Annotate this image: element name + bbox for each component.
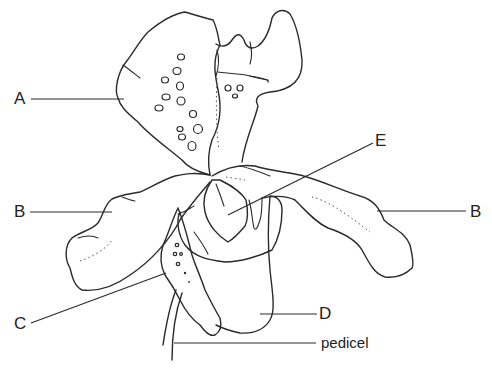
- label-c: C: [14, 315, 26, 332]
- label-b-left: B: [14, 203, 25, 220]
- label-pedicel: pedicel: [321, 335, 369, 350]
- upper-lobe-line-2: [250, 42, 252, 64]
- dorsal-sepal-spots: [155, 54, 203, 151]
- pedicel-stem: [163, 290, 182, 360]
- dorsal-sepal-fold: [123, 65, 140, 78]
- right-petal-serrated-edge: [240, 166, 270, 176]
- left-petal-vein: [80, 240, 112, 261]
- orchid-diagram: A B B C D E pedicel: [0, 0, 492, 369]
- staminode-line: [216, 184, 224, 206]
- upper-lobe-seam-2: [250, 76, 268, 80]
- synsepal-spots: [173, 243, 190, 283]
- dorsal-sepal-outline: [116, 12, 220, 175]
- upper-lobe-seam: [218, 72, 268, 82]
- label-d: D: [319, 305, 331, 322]
- leader-line-c: [31, 273, 166, 323]
- upper-right-lobe: [216, 11, 302, 162]
- column-side: [249, 198, 262, 229]
- orchid-drawing: [0, 0, 492, 369]
- pouch-rim-2: [194, 232, 208, 254]
- leader-line-e: [228, 143, 373, 215]
- label-a: A: [14, 90, 25, 107]
- lip-pouch: [178, 196, 282, 333]
- left-petal-fold: [122, 197, 135, 201]
- upper-lobe-spots: [225, 85, 243, 98]
- center-dotted: [226, 177, 245, 180]
- right-petal-vein: [312, 197, 370, 232]
- left-lateral-petal: [66, 173, 210, 290]
- label-b-right: B: [470, 203, 481, 220]
- staminode: [204, 180, 248, 242]
- left-petal-fold-2: [78, 236, 98, 238]
- label-e: E: [375, 132, 386, 149]
